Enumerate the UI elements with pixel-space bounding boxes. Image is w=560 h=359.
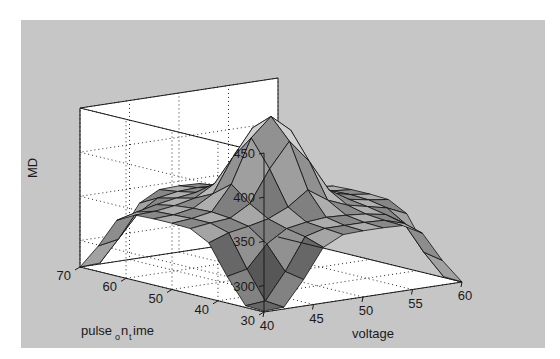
surface-plot-svg[interactable]: 30035040045030405060704045505560 MD volt…: [21, 20, 545, 348]
y-tick: [213, 301, 218, 304]
z-tick-label: 400: [233, 190, 255, 205]
y-axis-title-sub1: o: [115, 332, 120, 342]
y-tick: [121, 278, 126, 281]
y-tick-label: 40: [195, 302, 209, 317]
x-tick-label: 40: [260, 318, 274, 333]
x-tick-label: 60: [458, 288, 472, 303]
x-tick-label: 45: [309, 311, 323, 326]
y-axis-title-part3: ime: [133, 323, 154, 338]
y-axis-title-part1: pulse: [81, 323, 112, 338]
y-axis-title-sub2: t: [129, 332, 132, 342]
figure-root: 30035040045030405060704045505560 MD volt…: [0, 0, 560, 359]
z-tick-label: 450: [233, 146, 255, 161]
x-tick: [412, 290, 413, 295]
x-tick: [362, 297, 363, 302]
z-tick-label: 350: [233, 234, 255, 249]
y-tick-label: 60: [103, 279, 117, 294]
x-tick-label: 55: [408, 296, 422, 311]
x-tick: [313, 305, 314, 310]
y-tick: [167, 290, 172, 293]
figure-canvas: 30035040045030405060704045505560 MD volt…: [21, 20, 545, 348]
surface-facet: [404, 223, 442, 260]
x-tick-label: 50: [359, 303, 373, 318]
y-tick: [75, 267, 80, 270]
y-tick-label: 70: [57, 268, 71, 283]
y-tick-label: 30: [241, 313, 255, 328]
x-axis-title: voltage: [352, 326, 394, 341]
z-tick-label: 300: [233, 279, 255, 294]
z-axis-title: MD: [25, 158, 40, 178]
y-axis-title-part2: n: [121, 323, 128, 338]
y-axis-title: pulse o n t ime: [81, 323, 154, 342]
y-tick-label: 50: [149, 291, 163, 306]
x-tick: [461, 282, 462, 287]
